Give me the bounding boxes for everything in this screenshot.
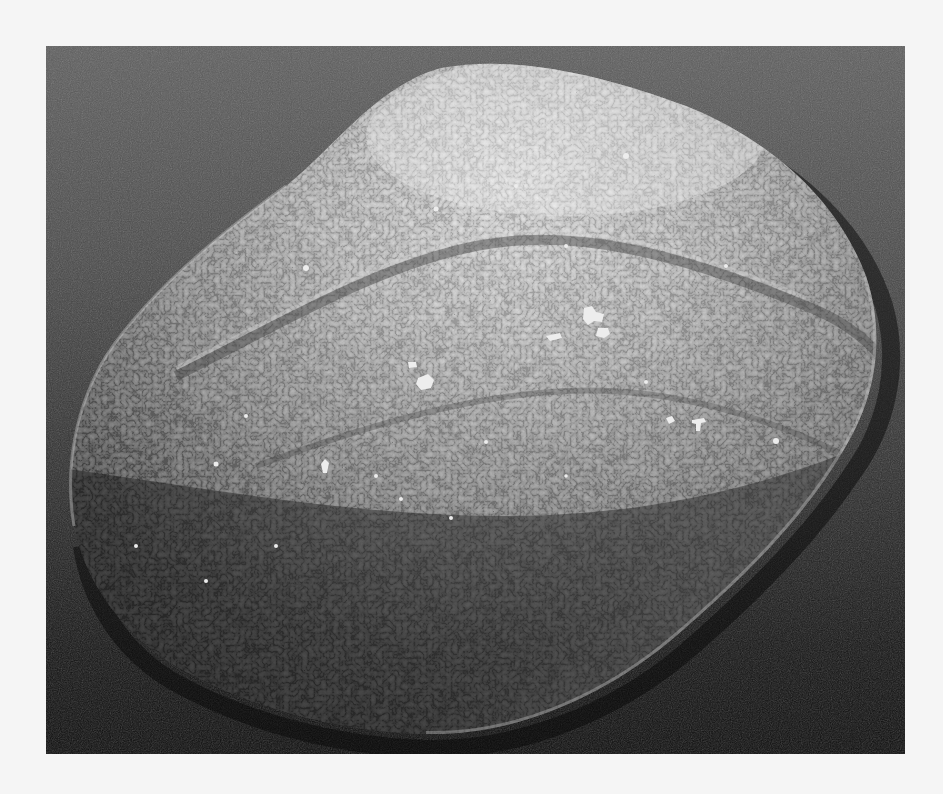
page xyxy=(0,0,943,794)
sem-micrograph xyxy=(46,46,905,754)
seed-image xyxy=(46,46,905,754)
